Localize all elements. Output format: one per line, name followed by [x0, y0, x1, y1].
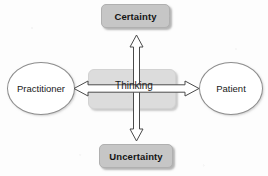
- concept-diagram: Certainty Uncertainty Practitioner Patie…: [0, 0, 268, 176]
- axis-arrows: [0, 0, 268, 176]
